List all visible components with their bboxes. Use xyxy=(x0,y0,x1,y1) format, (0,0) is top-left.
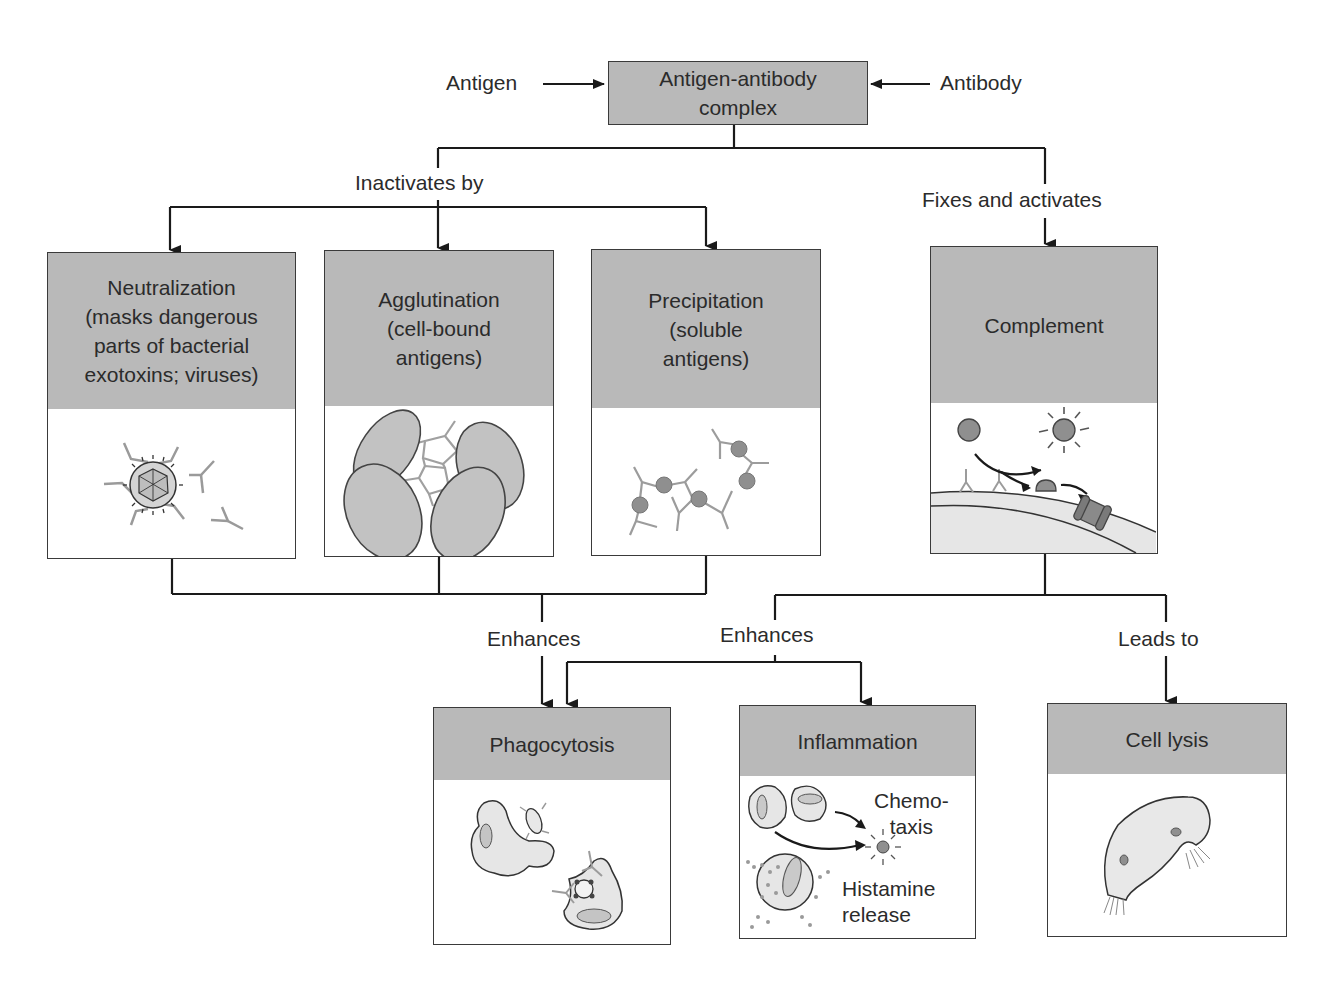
histamine-release-label: Histamine release xyxy=(842,876,935,928)
complement-title: Complement xyxy=(931,247,1157,403)
lysing-cell-icon xyxy=(1048,775,1285,936)
precipitation-box: Precipitation (soluble antigens) xyxy=(591,249,821,556)
complement-activation-icon xyxy=(931,404,1156,553)
cell-lysis-box: Cell lysis xyxy=(1047,703,1287,937)
complex-box-title: Antigen-antibody complex xyxy=(609,62,867,124)
complement-box: Complement xyxy=(930,246,1158,554)
phagocytosis-box: Phagocytosis xyxy=(433,707,671,945)
precipitation-title: Precipitation (soluble antigens) xyxy=(592,250,820,408)
chemotaxis-label: Chemo- taxis xyxy=(874,788,949,840)
enhances-label-right: Enhances xyxy=(720,623,813,647)
precipitate-lattice-icon xyxy=(592,407,819,555)
fixes-and-activates-label: Fixes and activates xyxy=(922,188,1102,212)
inflammation-title: Inflammation xyxy=(740,706,975,776)
leads-to-label: Leads to xyxy=(1118,627,1199,651)
agglutinated-cells-icon xyxy=(325,406,552,556)
agglutination-box: Agglutination (cell-bound antigens) xyxy=(324,250,554,557)
phagocytosis-title: Phagocytosis xyxy=(434,708,670,780)
cell-lysis-title: Cell lysis xyxy=(1048,704,1286,774)
neutralization-title: Neutralization (masks dangerous parts of… xyxy=(48,253,295,409)
virus-neutralized-icon xyxy=(48,409,294,558)
inflammation-box: Inflammation Chemo- taxis Histamine rele… xyxy=(739,705,976,939)
antibody-label: Antibody xyxy=(940,71,1022,95)
neutralization-box: Neutralization (masks dangerous parts of… xyxy=(47,252,296,559)
agglutination-title: Agglutination (cell-bound antigens) xyxy=(325,251,553,406)
antigen-antibody-complex-box: Antigen-antibody complex xyxy=(608,61,868,125)
antigen-label: Antigen xyxy=(446,71,517,95)
enhances-label-left: Enhances xyxy=(487,627,580,651)
phagocytes-icon xyxy=(434,781,669,944)
inactivates-by-label: Inactivates by xyxy=(355,171,483,195)
